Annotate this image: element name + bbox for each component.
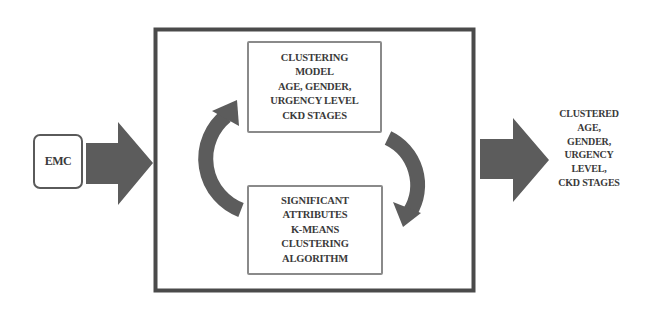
top-box-line: URGENCY LEVEL	[270, 94, 358, 109]
output-line: CLUSTERED	[540, 107, 638, 121]
output-line: CKD STAGES	[540, 176, 638, 190]
bottom-box-line: ATTRIBUTES	[281, 208, 349, 223]
bottom-box-line: ALGORITHM	[281, 252, 349, 267]
cycle-arrow-right-icon	[388, 138, 421, 227]
bottom-box-line: SIGNIFICANT	[281, 194, 349, 209]
kmeans-algorithm-text: SIGNIFICANT ATTRIBUTES K-MEANS CLUSTERIN…	[281, 194, 349, 267]
emc-label: EMC	[45, 154, 72, 169]
input-arrow-icon	[86, 122, 153, 205]
output-results-text: CLUSTERED AGE, GENDER, URGENCY LEVEL, CK…	[540, 107, 638, 190]
top-box-line: MODEL	[270, 65, 358, 80]
cycle-arrow-left-icon	[206, 100, 241, 210]
clustering-model-box: CLUSTERING MODEL AGE, GENDER, URGENCY LE…	[247, 41, 382, 133]
top-box-line: CLUSTERING	[270, 51, 358, 66]
output-arrow-icon	[480, 118, 549, 202]
bottom-box-line: K-MEANS	[281, 223, 349, 238]
bottom-box-line: CLUSTERING	[281, 237, 349, 252]
output-line: AGE,	[540, 121, 638, 135]
top-box-line: CKD STAGES	[270, 109, 358, 124]
output-line: GENDER,	[540, 135, 638, 149]
output-line: LEVEL,	[540, 162, 638, 176]
clustering-model-text: CLUSTERING MODEL AGE, GENDER, URGENCY LE…	[270, 51, 358, 124]
emc-input-box: EMC	[33, 134, 83, 189]
diagram-canvas: EMC CLUSTERING MODEL AGE, GENDER, URGENC…	[0, 0, 668, 316]
top-box-line: AGE, GENDER,	[270, 80, 358, 95]
kmeans-algorithm-box: SIGNIFICANT ATTRIBUTES K-MEANS CLUSTERIN…	[247, 185, 383, 275]
output-line: URGENCY	[540, 148, 638, 162]
